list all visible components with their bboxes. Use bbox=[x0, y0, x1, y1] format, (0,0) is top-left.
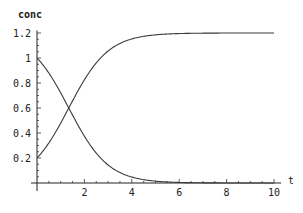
y-tick-label: 1 bbox=[25, 53, 31, 64]
y-axis-title: conc bbox=[18, 9, 42, 20]
x-axis-title: t bbox=[288, 175, 294, 186]
decreasing-curve bbox=[37, 58, 274, 183]
x-tick-label: 6 bbox=[176, 187, 182, 198]
x-tick-label: 10 bbox=[268, 187, 280, 198]
line-chart: 2468100.20.40.60.811.2 conc t bbox=[0, 0, 303, 213]
tick-labels: 2468100.20.40.60.811.2 bbox=[13, 28, 280, 199]
ticks bbox=[37, 33, 274, 183]
x-tick-label: 4 bbox=[129, 187, 135, 198]
increasing-curve bbox=[37, 33, 274, 158]
y-tick-label: 1.2 bbox=[13, 28, 31, 39]
y-tick-label: 0.6 bbox=[13, 103, 31, 114]
x-tick-label: 2 bbox=[81, 187, 87, 198]
curves bbox=[37, 33, 274, 183]
y-tick-label: 0.8 bbox=[13, 78, 31, 89]
x-tick-label: 8 bbox=[224, 187, 230, 198]
y-tick-label: 0.4 bbox=[13, 128, 31, 139]
axes bbox=[31, 31, 281, 192]
y-tick-label: 0.2 bbox=[13, 153, 31, 164]
